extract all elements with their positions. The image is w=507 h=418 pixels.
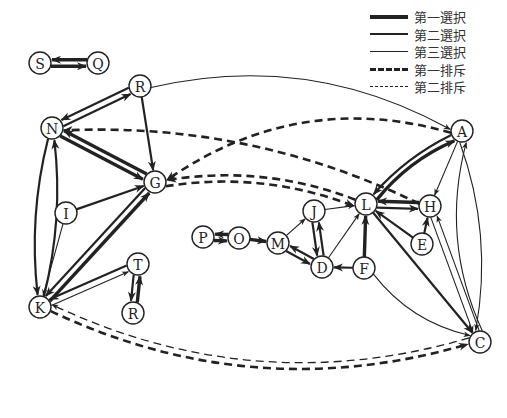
node-h: H [419,195,441,217]
svg-text:I: I [63,206,69,222]
node-q: Q [87,52,109,74]
svg-text:F: F [359,261,369,277]
legend-label: 第二排斥 [414,77,466,96]
node-r: R [129,75,151,97]
edge-a-to-g [167,119,451,181]
svg-text:E: E [417,237,427,253]
node-o: O [228,227,250,249]
legend-label: 第三選択 [414,42,466,61]
svg-text:O: O [233,231,244,247]
node-r2: R [122,302,144,324]
node-n: N [41,117,63,139]
svg-text:D: D [316,260,327,276]
svg-text:T: T [133,257,143,273]
svg-text:R: R [128,306,139,322]
svg-text:C: C [475,335,486,351]
edge-h-to-c [431,217,473,331]
legend-label: 第二選択 [414,25,466,44]
legend-label: 第一選択 [414,7,466,26]
node-d: D [311,256,333,278]
svg-text:K: K [35,300,46,316]
edge-layer [35,60,483,369]
node-g: G [144,171,166,193]
edge-n-to-k [35,139,48,295]
legend-line-swatch [370,51,408,52]
edge-c-to-k [52,305,469,363]
edge-m-to-j [286,219,305,236]
legend: 第一選択第二選択第三選択第一排斥第二排斥 [370,8,466,96]
edge-g-to-n [64,131,147,174]
legend-item: 第一選択 [370,8,466,26]
edge-t-to-k [50,265,127,299]
node-c: C [469,331,491,353]
edge-l-to-a [377,141,455,200]
legend-item: 第三選択 [370,43,466,61]
node-e: E [411,233,433,255]
node-s: S [29,52,51,74]
node-k: K [29,296,51,318]
svg-text:J: J [309,204,317,220]
edge-n-to-r [63,94,130,126]
node-a: A [451,120,473,142]
svg-text:Q: Q [92,56,103,72]
edge-k-to-c [51,311,468,369]
node-p: P [192,226,214,248]
edge-j-to-l [325,206,354,210]
edge-m-to-d [286,251,310,264]
edge-t-to-r2 [131,275,134,301]
edge-k-to-n [44,140,57,296]
edge-l-to-h [377,208,418,209]
legend-item: 第二選択 [370,26,466,44]
edge-d-to-m [290,246,314,259]
edge-r-to-n [61,88,128,120]
edge-j-to-d [312,222,317,255]
svg-text:S: S [35,56,45,72]
legend-item: 第一排斥 [370,61,466,79]
edge-r2-to-t [137,276,140,302]
legend-line-swatch [370,86,408,87]
edge-n-to-g [60,136,143,179]
legend-line-swatch [370,68,408,71]
node-f: F [353,257,375,279]
edge-o-to-m [250,239,266,241]
node-t: T [127,253,149,275]
svg-text:M: M [271,236,285,252]
legend-item: 第二排斥 [370,78,466,96]
node-l: L [355,193,377,215]
edge-d-to-l [328,214,359,258]
node-j: J [303,200,325,222]
svg-text:A: A [456,124,468,140]
edge-i-to-g [76,186,143,209]
svg-text:N: N [46,121,58,137]
node-m: M [267,232,289,254]
svg-text:H: H [424,199,436,215]
edge-i-to-k [43,224,63,296]
edge-c-to-h [437,216,479,330]
svg-text:G: G [149,175,160,191]
legend-line-swatch [370,15,408,19]
svg-text:P: P [198,230,207,246]
edge-g-to-l [166,182,354,206]
edge-r-to-g [142,97,153,170]
svg-text:L: L [361,197,370,213]
legend-line-swatch [370,33,408,35]
node-i: I [55,202,77,224]
edge-e-to-h [424,218,427,233]
legend-label: 第一排斥 [414,60,466,79]
svg-text:R: R [135,79,146,95]
edge-f-to-l [364,216,365,257]
edge-d-to-j [319,222,324,255]
